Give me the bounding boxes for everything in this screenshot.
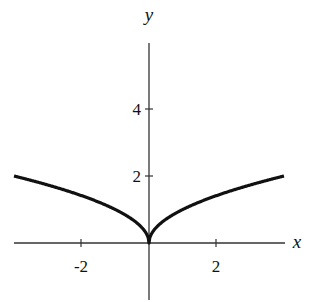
chart: -2 2 2 4 x y	[0, 0, 310, 302]
y-tick-label-4: 4	[133, 100, 142, 119]
y-axis-label: y	[143, 4, 154, 25]
x-tick-label-2: 2	[212, 257, 221, 276]
x-axis-label: x	[292, 231, 302, 252]
y-tick-label-2: 2	[133, 167, 142, 186]
x-tick-label-neg2: -2	[74, 257, 88, 276]
